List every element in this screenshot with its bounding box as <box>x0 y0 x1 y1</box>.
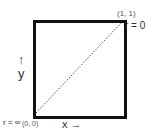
bottom-left-label: r = ∞ <box>3 118 20 127</box>
bottom-left-coord: (0, 0) <box>22 120 38 127</box>
top-right-label: r = 0 <box>125 20 145 31</box>
x-axis-label: x → <box>62 118 82 130</box>
top-right-coord: (1, 1) <box>117 9 136 18</box>
y-axis-label: y <box>18 66 25 81</box>
y-arrow-icon: ↑ <box>18 53 24 67</box>
